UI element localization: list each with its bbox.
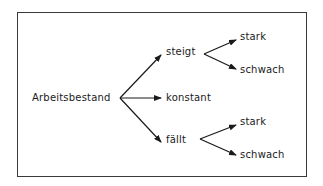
arrow-to-steigt — [120, 55, 161, 98]
arrow-to-faellt — [120, 98, 161, 142]
node-faellt-schwach: schwach — [240, 149, 285, 161]
node-steigt-schwach: schwach — [240, 64, 285, 76]
arrow-faellt-stark — [200, 125, 236, 139]
node-steigt-stark: stark — [240, 31, 266, 43]
arrow-steigt-schwach — [204, 54, 236, 69]
node-faellt-stark: stark — [240, 116, 266, 128]
root-label: Arbeitsbestand — [32, 92, 111, 104]
arrow-steigt-stark — [204, 40, 236, 54]
node-faellt: fällt — [166, 134, 186, 146]
node-konstant: konstant — [166, 92, 211, 104]
arrow-faellt-schwach — [200, 139, 236, 155]
node-steigt: steigt — [166, 46, 196, 58]
